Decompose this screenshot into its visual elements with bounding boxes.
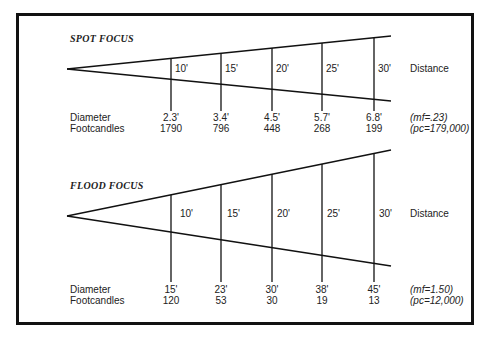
flood-diameter-30: 45' [354,284,394,295]
spot-distance-15: 15' [225,63,238,74]
spot-diameter-10: 2.3' [151,112,191,123]
spot-distance-10: 10' [175,63,188,74]
spot-footcandles-10: 1790 [151,123,191,134]
flood-distance-15: 15' [227,208,240,219]
flood-focus-title: FLOOD FOCUS [70,180,144,191]
spot-footcandles-20: 448 [252,123,292,134]
flood-distance-label: Distance [410,208,449,219]
spot-footcandles-15: 796 [201,123,241,134]
spot-diameter-25: 5.7' [302,112,342,123]
spot-diameter-label: Diameter [70,112,111,123]
spot-footcandles-25: 268 [302,123,342,134]
flood-diameter-label: Diameter [70,284,111,295]
flood-footcandles-25: 19 [302,295,342,306]
flood-footcandles-15: 53 [201,295,241,306]
spot-footcandles-30: 199 [354,123,394,134]
flood-diameter-25: 38' [302,284,342,295]
flood-distance-10: 10' [180,208,193,219]
flood-mf: (mf=1.50) [410,284,453,295]
flood-diameter-20: 30' [252,284,292,295]
spot-distance-25: 25' [326,63,339,74]
flood-footcandles-30: 13 [354,295,394,306]
spot-distance-30: 30' [378,63,391,74]
spot-footcandles-label: Footcandles [70,123,124,134]
spot-focus-title: SPOT FOCUS [70,33,134,44]
spot-diameter-30: 6.8' [354,112,394,123]
flood-footcandles-10: 120 [151,295,191,306]
flood-distance-25: 25' [327,208,340,219]
flood-diameter-15: 23' [201,284,241,295]
flood-footcandles-20: 30 [252,295,292,306]
spot-mf: (mf=.23) [410,112,448,123]
flood-diameter-10: 15' [151,284,191,295]
spot-diameter-15: 3.4' [201,112,241,123]
spot-pc: (pc=179,000) [410,123,469,134]
flood-pc: (pc=12,000) [410,295,464,306]
flood-distance-30: 30' [379,208,392,219]
spot-diameter-20: 4.5' [252,112,292,123]
spot-distance-20: 20' [276,63,289,74]
flood-footcandles-label: Footcandles [70,295,124,306]
spot-distance-label: Distance [410,63,449,74]
flood-distance-20: 20' [277,208,290,219]
